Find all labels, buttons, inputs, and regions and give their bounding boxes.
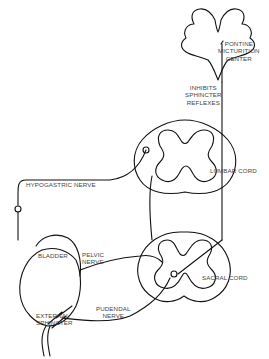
inhibitory-axon (178, 240, 222, 274)
lumbar-cord-section (134, 120, 236, 194)
micturition-diagram: PONTINE MICTURITION CENTER INHIBITS SPHI… (0, 0, 269, 359)
pontine-micturition-center-label: PONTINE MICTURITION CENTER (218, 40, 260, 62)
lumbar-cord-label: LUMBAR CORD (210, 167, 257, 174)
pelvic-nerve-label: PELVIC NERVE (82, 251, 104, 266)
sacral-cord-label: SACRAL CORD (202, 274, 248, 281)
inhibits-sphincter-reflexes-label: INHIBITS SPHINCTER REFLEXES (185, 84, 222, 106)
hypogastric-nerve-label: HYPOGASTRIC NERVE (26, 181, 96, 188)
bladder-label: BLADDER (38, 252, 68, 259)
hypogastric-nerve-path (18, 150, 146, 205)
pudendal-nerve-label: PUDENDAL NERVE (96, 305, 131, 320)
sacral-cord-section (138, 232, 231, 302)
external-sphincter-label: EXTERNAL SPHINCTER (36, 312, 73, 327)
lumbar-sacral-connector (150, 176, 152, 240)
hypogastric-ganglion (15, 206, 21, 212)
